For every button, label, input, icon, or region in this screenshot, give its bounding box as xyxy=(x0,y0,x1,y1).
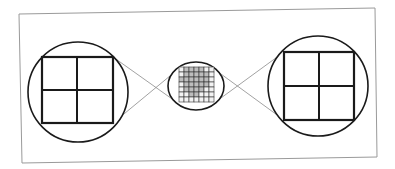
center-pixel-grid xyxy=(168,62,224,110)
grid-cell xyxy=(199,67,204,72)
grid-cell xyxy=(179,67,184,72)
grid-cell xyxy=(179,87,184,92)
grid-cell xyxy=(204,92,209,97)
grid-cell xyxy=(209,87,214,92)
grid-cell xyxy=(184,72,189,77)
grid-cell xyxy=(194,82,199,87)
grid-cell xyxy=(189,72,194,77)
grid-cell xyxy=(189,97,194,102)
grid-cell xyxy=(194,77,199,82)
grid-cell xyxy=(189,87,194,92)
grid-cell xyxy=(204,82,209,87)
grid-cell xyxy=(194,97,199,102)
grid-cell xyxy=(189,92,194,97)
grid-cell xyxy=(179,72,184,77)
grid-cell xyxy=(189,67,194,72)
grid-cell xyxy=(199,72,204,77)
grid-cell xyxy=(184,92,189,97)
grid-cell xyxy=(209,82,214,87)
grid-cell xyxy=(189,77,194,82)
grid-cell xyxy=(179,77,184,82)
grid-cell xyxy=(179,97,184,102)
grid-cell xyxy=(204,77,209,82)
grid-cell xyxy=(184,77,189,82)
grid-cell xyxy=(199,87,204,92)
grid-cell xyxy=(194,67,199,72)
grid-cell xyxy=(184,97,189,102)
grid-cell xyxy=(204,67,209,72)
grid-cell xyxy=(199,77,204,82)
left-magnified-square xyxy=(28,42,128,142)
grid-cell xyxy=(199,82,204,87)
grid-cell xyxy=(204,97,209,102)
grid-cell xyxy=(209,77,214,82)
grid-cell xyxy=(184,87,189,92)
grid-cell xyxy=(209,92,214,97)
magnification-diagram xyxy=(0,0,395,169)
grid-cell xyxy=(199,92,204,97)
right-magnified-square xyxy=(268,36,368,136)
grid-cell xyxy=(209,97,214,102)
grid-cell xyxy=(204,72,209,77)
grid-cell xyxy=(204,87,209,92)
grid-cell xyxy=(194,87,199,92)
grid-cell xyxy=(194,92,199,97)
grid-cell xyxy=(209,72,214,77)
grid-cell xyxy=(179,82,184,87)
grid-cell xyxy=(184,82,189,87)
grid-cell xyxy=(189,82,194,87)
grid-cell xyxy=(209,67,214,72)
grid-cell xyxy=(199,97,204,102)
grid-cell xyxy=(184,67,189,72)
grid-cell xyxy=(194,72,199,77)
grid-cell xyxy=(179,92,184,97)
